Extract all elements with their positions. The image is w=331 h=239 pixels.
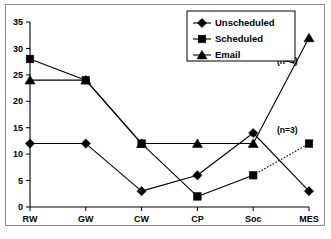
series-segment-scheduled <box>253 144 309 176</box>
y-tick-label: 35 <box>13 17 23 27</box>
x-tick-label: RW <box>23 214 38 224</box>
y-tick-label: 10 <box>13 149 23 159</box>
legend-label-email: Email <box>215 49 240 60</box>
y-tick-label: 30 <box>13 44 23 54</box>
series-segment-unscheduled <box>197 133 253 175</box>
line-chart: 05101520253035 RWGWCWCPSocMES (n=4)(n=3)… <box>6 5 324 225</box>
annotation-n3: (n=3) <box>277 125 298 135</box>
x-tick-label: CP <box>191 214 204 224</box>
chart-frame: 05101520253035 RWGWCWCPSocMES (n=4)(n=3)… <box>5 4 325 226</box>
data-point-scheduled-mes <box>305 140 313 148</box>
data-point-email-mes <box>304 33 314 42</box>
legend-marker-scheduled <box>198 35 206 43</box>
data-point-scheduled-soc <box>249 172 257 180</box>
chart-legend: UnscheduledScheduledEmail <box>187 11 295 61</box>
y-tick-label: 0 <box>18 202 23 212</box>
y-tick-label: 25 <box>13 70 23 80</box>
y-tick-label: 5 <box>18 176 23 186</box>
x-tick-label: MES <box>299 214 319 224</box>
series-segment-scheduled <box>197 175 253 196</box>
x-tick-label: Soc <box>245 214 262 224</box>
x-axis-ticks: RWGWCWCPSocMES <box>23 207 319 224</box>
y-tick-label: 15 <box>13 123 23 133</box>
y-axis-ticks: 05101520253035 <box>13 17 30 212</box>
data-point-scheduled-rw <box>26 55 34 63</box>
series-segment-scheduled <box>30 59 86 80</box>
legend-label-unscheduled: Unscheduled <box>215 17 275 28</box>
series-segment-unscheduled <box>253 133 309 191</box>
data-point-scheduled-cp <box>194 193 202 201</box>
data-point-unscheduled-cp <box>193 171 202 180</box>
y-tick-label: 20 <box>13 96 23 106</box>
x-tick-label: CW <box>134 214 149 224</box>
legend-label-scheduled: Scheduled <box>215 33 263 44</box>
series-segment-unscheduled <box>86 144 142 192</box>
data-point-unscheduled-rw <box>25 139 34 148</box>
x-tick-label: GW <box>78 214 94 224</box>
series-segment-email <box>86 80 142 143</box>
annotation-layer: (n=4)(n=3) <box>277 56 298 135</box>
